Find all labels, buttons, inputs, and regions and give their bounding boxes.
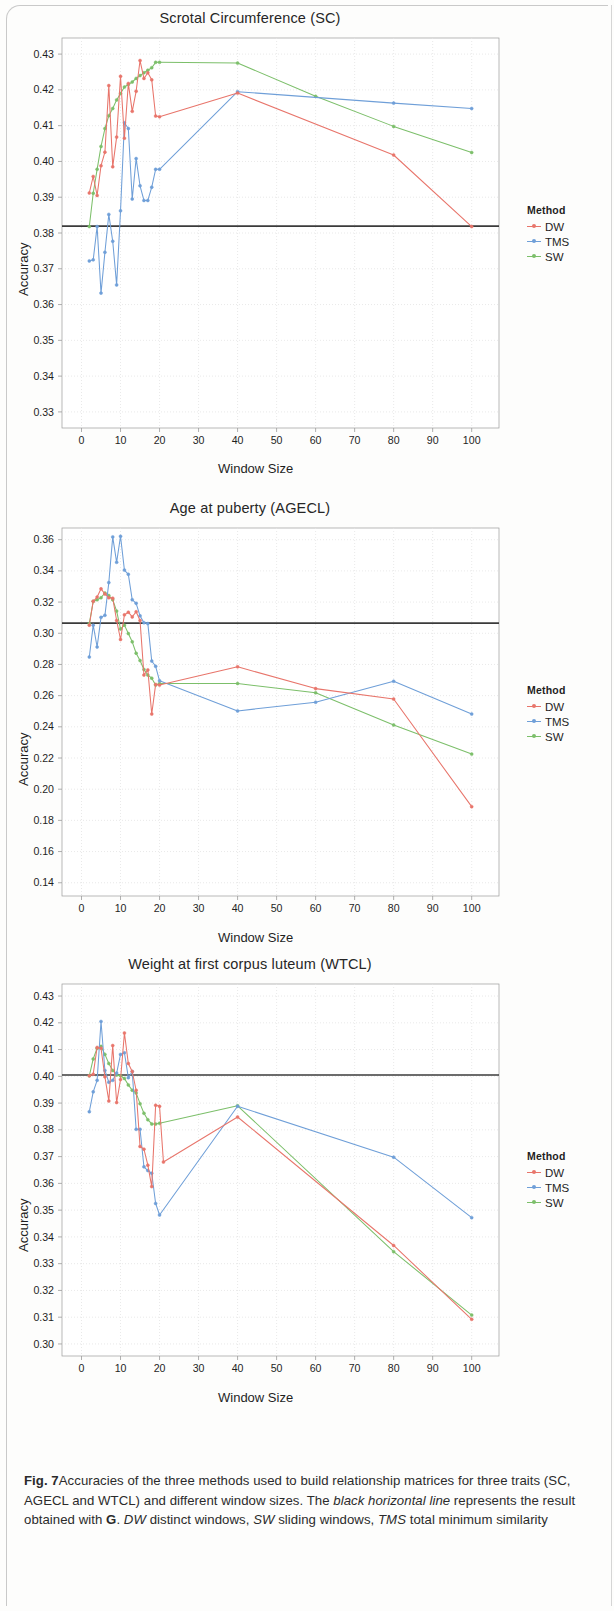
legend-title-wtcl: Method — [527, 1150, 569, 1162]
legend-item-tms-agecl[interactable]: TMS — [527, 714, 569, 729]
data-point — [115, 1072, 118, 1075]
y-tick-label: 0.18 — [33, 814, 54, 826]
x-tick-label: 20 — [154, 1362, 166, 1374]
data-point — [123, 613, 126, 616]
data-point — [88, 225, 91, 228]
y-tick-label: 0.36 — [33, 1177, 54, 1189]
data-point — [111, 597, 114, 600]
data-point — [146, 71, 149, 74]
data-point — [236, 92, 239, 95]
data-point — [150, 660, 153, 663]
data-point — [100, 616, 103, 619]
x-tick-label: 40 — [232, 1362, 244, 1374]
data-point — [392, 680, 395, 683]
data-point — [135, 1128, 138, 1131]
data-point — [470, 151, 473, 154]
data-point — [115, 136, 118, 139]
data-point — [139, 619, 142, 622]
legend-swatch-tms-icon — [527, 237, 541, 247]
x-tick-label: 20 — [154, 902, 166, 914]
data-point — [103, 592, 106, 595]
plot-svg-sc: 0.330.340.350.360.370.380.390.400.410.42… — [0, 28, 520, 458]
data-point — [127, 82, 130, 85]
data-point — [92, 258, 95, 261]
y-tick-label: 0.26 — [33, 689, 54, 701]
legend-item-sw-agecl[interactable]: SW — [527, 729, 569, 744]
x-tick-label: 40 — [232, 902, 244, 914]
y-tick-label: 0.41 — [33, 119, 54, 131]
data-point — [119, 1053, 122, 1056]
y-tick-label: 0.42 — [33, 1016, 54, 1028]
data-point — [111, 535, 114, 538]
data-point — [111, 1079, 114, 1082]
y-tick-label: 0.22 — [33, 752, 54, 764]
legend-item-sw-sc[interactable]: SW — [527, 249, 569, 264]
legend-swatch-dw-icon — [527, 1168, 541, 1178]
data-point — [470, 1216, 473, 1219]
data-point — [139, 1145, 142, 1148]
grid-lines — [62, 984, 499, 1356]
x-tick-label: 20 — [154, 434, 166, 446]
legend-label-tms: TMS — [545, 236, 569, 248]
x-tick-label: 0 — [79, 434, 85, 446]
legend-label-sw: SW — [545, 731, 564, 743]
figure-label: Fig. 7 — [24, 1473, 59, 1488]
data-point — [158, 61, 161, 64]
data-point — [139, 184, 142, 187]
plot-area-agecl: 0.140.160.180.200.220.240.260.280.300.32… — [0, 518, 520, 926]
data-point — [470, 1314, 473, 1317]
data-point — [142, 77, 145, 80]
data-point — [100, 1020, 103, 1023]
y-tick-label: 0.34 — [33, 370, 54, 382]
data-point — [154, 1104, 157, 1107]
data-point — [123, 1077, 126, 1080]
x-tick-label: 30 — [193, 1362, 205, 1374]
data-point — [158, 1105, 161, 1108]
legend-wtcl: Method DW TMS SW — [527, 1150, 569, 1210]
data-point — [96, 1079, 99, 1082]
y-tick-label: 0.40 — [33, 155, 54, 167]
y-tick-label: 0.43 — [33, 48, 54, 60]
data-point — [111, 107, 114, 110]
data-point — [96, 225, 99, 228]
legend-item-tms-wtcl[interactable]: TMS — [527, 1180, 569, 1195]
data-point — [131, 110, 134, 113]
data-point — [135, 602, 138, 605]
y-tick-label: 0.34 — [33, 564, 54, 576]
legend-label-dw: DW — [545, 701, 564, 713]
legend-item-dw-sc[interactable]: DW — [527, 219, 569, 234]
x-tick-label: 0 — [79, 1362, 85, 1374]
data-point — [146, 668, 149, 671]
y-tick-label: 0.33 — [33, 1257, 54, 1269]
data-point — [131, 198, 134, 201]
legend-item-dw-agecl[interactable]: DW — [527, 699, 569, 714]
data-point — [107, 84, 110, 87]
data-point — [115, 98, 118, 101]
data-point — [127, 127, 130, 130]
legend-item-tms-sc[interactable]: TMS — [527, 234, 569, 249]
data-point — [470, 713, 473, 716]
data-point — [236, 709, 239, 712]
data-point — [236, 682, 239, 685]
data-point — [88, 624, 91, 627]
caption-text-5: sliding windows, — [275, 1512, 379, 1527]
plot-area-sc: 0.330.340.350.360.370.380.390.400.410.42… — [0, 28, 520, 458]
data-point — [139, 59, 142, 62]
data-point — [96, 645, 99, 648]
data-point — [92, 1090, 95, 1093]
y-tick-label: 0.42 — [33, 83, 54, 95]
legend-item-sw-wtcl[interactable]: SW — [527, 1195, 569, 1210]
data-point — [392, 125, 395, 128]
y-tick-label: 0.33 — [33, 406, 54, 418]
data-point — [139, 614, 142, 617]
caption-emphasis-black-line: black horizontal line — [333, 1493, 450, 1508]
data-point — [96, 596, 99, 599]
legend-item-dw-wtcl[interactable]: DW — [527, 1165, 569, 1180]
legend-label-sw: SW — [545, 1197, 564, 1209]
y-tick-label: 0.41 — [33, 1043, 54, 1055]
data-point — [236, 665, 239, 668]
data-point — [88, 259, 91, 262]
y-tick-label: 0.32 — [33, 596, 54, 608]
y-tick-label: 0.36 — [33, 533, 54, 545]
caption-emphasis-sw: SW — [253, 1512, 274, 1527]
